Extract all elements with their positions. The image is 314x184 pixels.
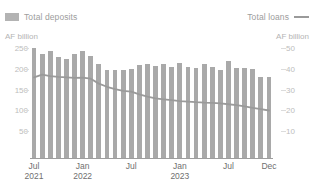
x-axis-tick-month: Jan: [76, 161, 90, 171]
legend-item-loans: Total loans: [247, 12, 309, 22]
x-axis-tick-month: Jul: [223, 161, 234, 171]
y-axis-right-tickmark: [281, 69, 286, 70]
x-axis-tick: Jul: [111, 161, 151, 171]
x-axis-tick-month: Jan: [173, 161, 187, 171]
right-axis-unit: AF billion: [276, 32, 309, 41]
y-axis-left-tickmark: [24, 48, 29, 49]
left-axis-unit: AF billion: [5, 32, 38, 41]
x-axis-tick-month: Jul: [126, 161, 137, 171]
y-axis-right-tick: 30: [286, 86, 295, 95]
x-axis-tick: Jan2022: [63, 161, 103, 181]
y-axis-right-tick: 10: [286, 127, 295, 136]
legend-label-loans: Total loans: [247, 12, 289, 22]
legend-item-deposits: Total deposits: [5, 12, 77, 22]
y-axis-right-tickmark: [281, 131, 286, 132]
y-axis-left-tickmark: [24, 110, 29, 111]
x-axis-tick-year: 2021: [14, 171, 54, 181]
bar-swatch-icon: [5, 13, 19, 21]
chart-root: Total deposits Total loans AF billion AF…: [0, 0, 314, 184]
plot-area: [30, 46, 273, 158]
axis-baseline: [30, 158, 273, 159]
x-axis-tick: Jan2023: [160, 161, 200, 181]
y-axis-right-tickmark: [281, 90, 286, 91]
y-axis-right-tick: 20: [286, 106, 295, 115]
line-series-total-loans: [30, 46, 273, 158]
x-axis-tick-month: Jul: [29, 161, 40, 171]
x-axis-tick-year: 2023: [160, 171, 200, 181]
x-axis-tick-year: 2022: [63, 171, 103, 181]
y-axis-left-tickmark: [24, 131, 29, 132]
y-axis-right-tick: 50: [286, 44, 295, 53]
y-axis-right-tickmark: [281, 110, 286, 111]
chart-legend: Total deposits Total loans: [0, 12, 314, 24]
y-axis-left-tickmark: [24, 69, 29, 70]
line-path: [34, 75, 269, 111]
x-axis-tick: Jul2021: [14, 161, 54, 181]
y-axis-right-tickmark: [281, 48, 286, 49]
x-axis-tick: Dec: [249, 161, 289, 171]
x-axis-tick-month: Dec: [261, 161, 276, 171]
x-axis-tick: Jul: [208, 161, 248, 171]
y-axis-left-tickmark: [24, 90, 29, 91]
y-axis-right-tick: 40: [286, 65, 295, 74]
legend-label-deposits: Total deposits: [24, 12, 77, 22]
line-swatch-icon: [294, 16, 309, 18]
